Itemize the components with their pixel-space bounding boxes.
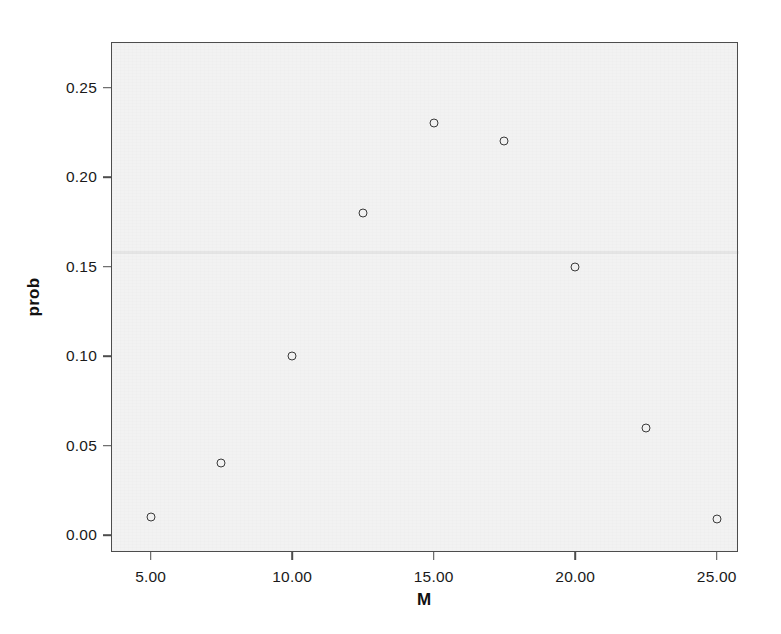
x-axis-label: M xyxy=(417,590,431,610)
x-axis-tick-mark xyxy=(716,552,718,560)
x-axis-tick-mark xyxy=(574,552,576,560)
y-axis-tick-mark xyxy=(103,445,111,447)
data-point-marker xyxy=(712,514,721,523)
y-axis-tick-label: 0.00 xyxy=(0,526,97,544)
y-axis-tick-mark xyxy=(103,534,111,536)
x-axis-tick-label: 5.00 xyxy=(135,568,166,586)
y-axis-tick-label: 0.05 xyxy=(0,437,97,455)
scan-artifact-band xyxy=(112,251,739,254)
data-point-marker xyxy=(642,423,651,432)
data-point-marker xyxy=(571,262,580,271)
y-axis-label: prob xyxy=(24,278,44,317)
data-point-marker xyxy=(429,119,438,128)
y-axis-tick-mark xyxy=(103,87,111,89)
x-axis-tick-mark xyxy=(433,552,435,560)
y-axis-tick-mark xyxy=(103,266,111,268)
data-point-marker xyxy=(500,137,509,146)
y-axis-tick-mark xyxy=(103,355,111,357)
y-axis-tick-label: 0.15 xyxy=(0,258,97,276)
y-axis-tick-label: 0.10 xyxy=(0,347,97,365)
x-axis-tick-mark xyxy=(291,552,293,560)
x-axis-tick-label: 20.00 xyxy=(555,568,595,586)
x-axis-tick-label: 10.00 xyxy=(272,568,312,586)
data-point-marker xyxy=(146,513,155,522)
data-point-marker xyxy=(288,352,297,361)
y-axis-tick-label: 0.25 xyxy=(0,79,97,97)
data-point-marker xyxy=(217,459,226,468)
x-axis-tick-label: 15.00 xyxy=(414,568,454,586)
y-axis-tick-mark xyxy=(103,176,111,178)
x-axis-tick-label: 25.00 xyxy=(697,568,737,586)
scatter-plot-figure: 0.000.050.100.150.200.25 5.0010.0015.002… xyxy=(0,0,781,634)
x-axis-tick-mark xyxy=(150,552,152,560)
y-axis-tick-label: 0.20 xyxy=(0,168,97,186)
paper-grain-overlay xyxy=(112,43,737,551)
data-point-marker xyxy=(358,208,367,217)
plot-area xyxy=(111,42,738,552)
